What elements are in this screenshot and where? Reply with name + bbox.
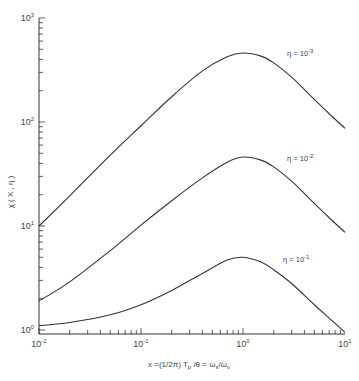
x-tick-label: 10-2 (31, 338, 47, 349)
curve-series-1 (39, 53, 345, 226)
curve-labels: η = 10-3η = 10-2η = 10-1 (283, 48, 314, 264)
y-tick-label: 103 (21, 12, 35, 23)
chart: 100101102103 10-210-1100101 η = 10-3η = … (0, 0, 359, 381)
x-tick-label: 100 (236, 338, 250, 349)
curves (39, 53, 345, 332)
curve-label: η = 10-3 (287, 48, 314, 58)
x-tick-labels: 10-210-1100101 (31, 338, 352, 349)
x-axis-label: x =(1/2π) Tp /θ = ωs/ων (148, 360, 230, 370)
x-ticks (39, 328, 340, 334)
x-tick-label: 101 (338, 338, 352, 349)
y-ticks (39, 18, 45, 330)
axes (39, 18, 345, 334)
y-tick-label: 100 (21, 324, 35, 335)
y-tick-labels: 100101102103 (21, 12, 35, 335)
x-tick-label: 10-1 (133, 338, 149, 349)
curve-label: η = 10-1 (283, 254, 310, 264)
curve-label: η = 10-2 (287, 153, 314, 163)
y-tick-label: 102 (21, 116, 35, 127)
y-tick-label: 101 (21, 220, 35, 231)
y-axis-label: χ ( X , η ) (6, 175, 15, 208)
curve-series-3 (39, 257, 345, 332)
